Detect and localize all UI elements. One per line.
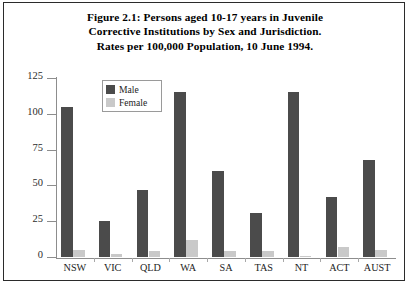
bar-female [262,251,274,257]
bar-male [363,160,375,257]
x-axis-label-sa: SA [207,262,245,273]
y-axis-tick-label: 75 [33,142,44,153]
y-axis-tick-mark [47,257,56,258]
x-axis-separator [132,258,133,262]
x-axis-label-tas: TAS [245,262,283,273]
bar-male [174,92,186,257]
bar-female [111,254,123,257]
y-axis-tick-label: 25 [33,213,44,224]
y-axis-tick-mark [47,150,56,151]
y-axis-tick: 125 [4,78,56,79]
legend-swatch-female-icon [106,98,115,107]
x-axis-separator [207,258,208,262]
x-axis-line [56,258,396,259]
bar-female [149,251,161,257]
bar-female [224,251,236,257]
x-axis-label-vic: VIC [94,262,132,273]
x-axis-separator [245,258,246,262]
y-axis-tick: 0 [4,257,56,258]
legend-label-male: Male [119,85,139,95]
legend-item-male: Male [106,83,161,96]
y-axis-tick-mark [47,185,56,186]
bar-female [300,256,312,257]
bar-group [169,78,207,257]
x-axis-label-act: ACT [320,262,358,273]
x-axis-separator [94,258,95,262]
bar-group [358,78,396,257]
bar-female [375,250,387,257]
bar-group [56,78,94,257]
figure-title-line-3: Rates per 100,000 Population, 10 June 19… [4,39,406,53]
y-axis-tick-label: 0 [38,249,43,260]
bar-female [73,250,85,257]
x-axis-separator [169,258,170,262]
y-axis-tick-mark [47,78,56,79]
y-axis-tick-mark [47,221,56,222]
legend-item-female: Female [106,96,161,109]
x-axis-label-aust: AUST [358,262,396,273]
y-axis-tick-label: 125 [27,70,43,81]
y-axis-tick: 50 [4,185,56,186]
bar-male [250,213,262,257]
figure-title-line-2: Corrective Institutions by Sex and Juris… [4,24,406,38]
bar-female [338,247,350,257]
y-axis-tick: 25 [4,221,56,222]
figure-title-line-1: Figure 2.1: Persons aged 10-17 years in … [4,10,406,24]
y-axis-tick: 75 [4,150,56,151]
bar-male [137,190,149,257]
y-axis-tick-label: 50 [33,177,44,188]
bar-male [212,171,224,257]
x-axis-separator [358,258,359,262]
bar-group [245,78,283,257]
y-axis-tick-label: 100 [27,106,43,117]
y-axis-tick-mark [47,114,56,115]
legend-swatch-male-icon [106,85,115,94]
bar-male [288,92,300,257]
figure-frame: Figure 2.1: Persons aged 10-17 years in … [3,2,405,281]
bar-female [186,240,198,257]
chart-legend: Male Female [102,80,162,112]
figure-title: Figure 2.1: Persons aged 10-17 years in … [4,10,406,53]
x-axis-label-wa: WA [169,262,207,273]
bar-male [326,197,338,257]
bar-group [283,78,321,257]
bar-male [99,221,111,257]
x-axis-separator [320,258,321,262]
x-axis-label-qld: QLD [132,262,170,273]
bar-group [207,78,245,257]
x-axis-separator [283,258,284,262]
x-axis-label-nt: NT [283,262,321,273]
legend-label-female: Female [119,98,147,108]
x-axis-label-nsw: NSW [56,262,94,273]
y-axis-tick: 100 [4,114,56,115]
bar-male [61,107,73,257]
bar-group [320,78,358,257]
